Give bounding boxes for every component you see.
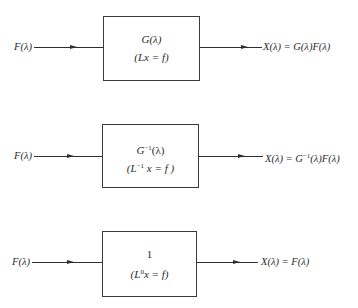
stage-3-block: 1 (L0x = f) (102, 231, 197, 297)
stage-3-output-label: X(λ) = F(λ) (261, 256, 309, 268)
stage-3-transfer-function: 1 (103, 248, 196, 260)
equation-rest: x = f) (144, 268, 169, 280)
stage-3-output-arrow-icon (233, 260, 240, 264)
stage-3: F(λ) 1 (L0x = f) X(λ) = F(λ) (0, 0, 358, 308)
block-diagram: F(λ) G(λ) (Lx = f) X(λ) = G(λ)F(λ) F(λ) … (0, 0, 358, 308)
equation-operator: (L (131, 268, 141, 280)
stage-3-input-label: F(λ) (12, 256, 30, 268)
stage-3-input-arrow-icon (67, 260, 74, 264)
stage-3-output-wire (197, 262, 258, 263)
stage-3-equation: (L0x = f) (103, 266, 196, 280)
